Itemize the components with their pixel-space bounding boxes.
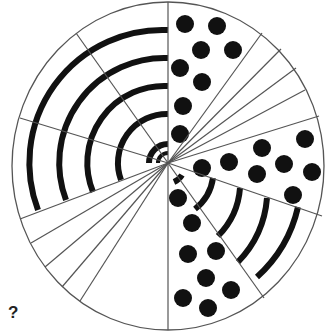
puzzle-circle: [0, 0, 332, 331]
question-mark: ?: [8, 303, 18, 323]
arcs-upper-left: [29, 30, 168, 210]
